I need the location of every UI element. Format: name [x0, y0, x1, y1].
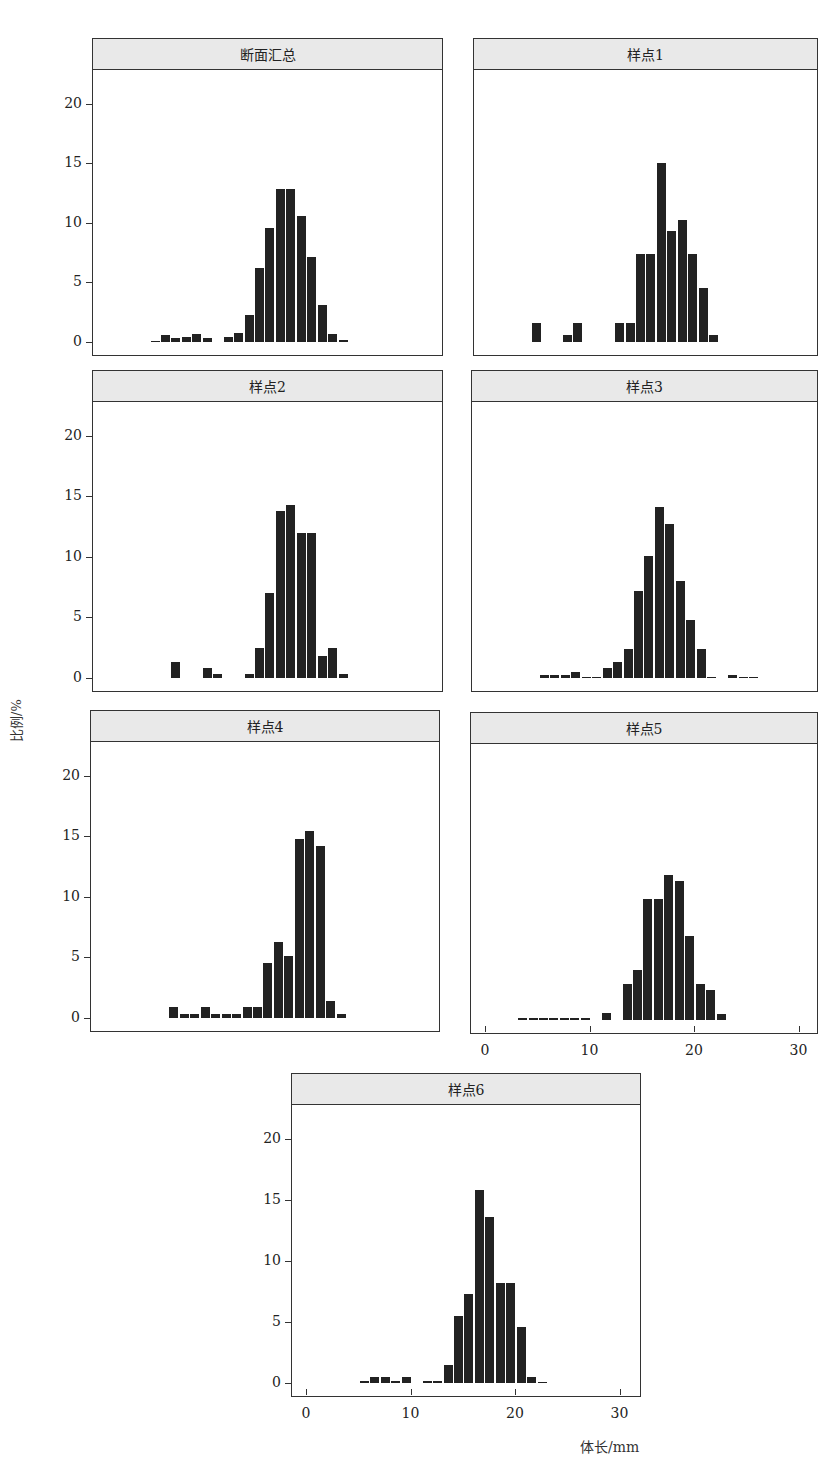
histogram-bar	[739, 677, 748, 678]
panel-5: 样点405101520	[90, 710, 440, 1032]
histogram-bar	[485, 1217, 494, 1383]
y-tick	[86, 223, 92, 224]
histogram-bar	[592, 677, 601, 678]
histogram-bar	[318, 305, 327, 342]
plot-area	[92, 402, 443, 692]
panel-title: 样点4	[90, 710, 440, 742]
histogram-bar	[527, 1377, 536, 1383]
histogram-bar	[602, 1013, 611, 1020]
panel-title: 样点3	[471, 370, 818, 402]
histogram-bar	[171, 338, 180, 342]
x-tick	[799, 1026, 800, 1032]
y-tick	[86, 557, 92, 558]
panel-title: 样点6	[291, 1073, 641, 1105]
y-tick-label: 15	[251, 1191, 281, 1207]
histogram-bar	[706, 990, 715, 1020]
y-tick-label: 10	[52, 214, 82, 230]
x-tick	[694, 1026, 695, 1032]
panel-2: 样点1	[473, 38, 818, 356]
histogram-bar	[381, 1377, 390, 1383]
histogram-bar	[339, 674, 348, 678]
histogram-bar	[728, 675, 737, 678]
y-tick	[86, 342, 92, 343]
histogram-bar	[263, 963, 272, 1018]
histogram-bar	[297, 216, 306, 342]
histogram-bar	[717, 1014, 726, 1020]
x-tick-label: 30	[605, 1405, 635, 1421]
histogram-bar	[634, 591, 643, 678]
histogram-bar	[444, 1365, 453, 1383]
histogram-bar	[192, 334, 201, 342]
histogram-bar	[654, 899, 663, 1020]
plot-area	[92, 70, 443, 356]
plot-area	[291, 1105, 641, 1397]
y-tick	[86, 678, 92, 679]
y-tick	[285, 1200, 291, 1201]
y-tick-label: 10	[50, 888, 80, 904]
panel-title: 样点2	[92, 370, 443, 402]
histogram-bar	[402, 1377, 411, 1383]
plot-area	[470, 744, 818, 1034]
histogram-bar	[305, 831, 314, 1018]
y-tick-label: 0	[52, 669, 82, 685]
histogram-bar	[286, 189, 295, 342]
histogram-bar	[506, 1283, 515, 1383]
histogram-bar	[655, 507, 664, 678]
histogram-bar	[676, 581, 685, 678]
histogram-bar	[211, 1014, 220, 1018]
histogram-bar	[613, 662, 622, 678]
histogram-bar	[433, 1381, 442, 1383]
y-tick-label: 20	[52, 427, 82, 443]
histogram-bar	[623, 984, 632, 1020]
histogram-bar	[697, 649, 706, 678]
x-tick	[515, 1389, 516, 1395]
y-tick-label: 10	[52, 548, 82, 564]
y-tick-label: 5	[52, 608, 82, 624]
histogram-bar	[688, 254, 697, 342]
histogram-bar	[581, 1018, 590, 1020]
panel-3: 样点205101520	[92, 370, 443, 692]
histogram-bar	[328, 334, 337, 342]
histogram-bar	[664, 875, 673, 1020]
y-tick	[86, 617, 92, 618]
histogram-bar	[454, 1316, 463, 1383]
histogram-bar	[549, 1018, 558, 1020]
histogram-bar	[696, 984, 705, 1020]
y-axis-title: 比例/%	[6, 699, 25, 742]
y-tick	[84, 1018, 90, 1019]
histogram-bar	[749, 677, 758, 678]
x-tick-label: 20	[500, 1405, 530, 1421]
histogram-bar	[529, 1018, 538, 1020]
x-tick-label: 30	[784, 1042, 814, 1058]
y-tick	[84, 957, 90, 958]
histogram-bar	[707, 677, 716, 678]
histogram-bar	[201, 1007, 210, 1018]
histogram-bar	[532, 323, 541, 342]
histogram-bar	[171, 662, 180, 678]
histogram-bar	[517, 1327, 526, 1383]
histogram-bar	[222, 1014, 231, 1018]
histogram-bar	[307, 533, 316, 678]
y-tick	[86, 104, 92, 105]
histogram-bar	[636, 254, 645, 342]
y-tick-label: 10	[251, 1252, 281, 1268]
y-tick	[84, 897, 90, 898]
x-tick	[306, 1389, 307, 1395]
histogram-bar	[190, 1014, 199, 1018]
histogram-bar	[582, 677, 591, 678]
histogram-bar	[646, 254, 655, 342]
histogram-bar	[169, 1007, 178, 1018]
histogram-bar	[297, 533, 306, 678]
histogram-bar	[496, 1283, 505, 1383]
histogram-bar	[518, 1018, 527, 1020]
histogram-bar	[276, 511, 285, 678]
histogram-bar	[475, 1190, 484, 1383]
x-tick	[485, 1026, 486, 1032]
histogram-bar	[245, 674, 254, 678]
histogram-bar	[540, 675, 549, 678]
histogram-bar	[675, 881, 684, 1020]
histogram-bar	[464, 1294, 473, 1383]
histogram-bar	[182, 337, 191, 342]
plot-area	[471, 402, 818, 692]
y-tick-label: 20	[50, 767, 80, 783]
